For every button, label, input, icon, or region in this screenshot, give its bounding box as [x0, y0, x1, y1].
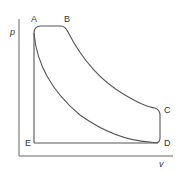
compression-curve [34, 33, 158, 143]
point-label-e: E [25, 139, 31, 148]
point-label-c: C [164, 106, 171, 115]
point-label-d: D [164, 139, 171, 148]
point-label-a: A [31, 15, 37, 24]
y-axis-label: p [10, 28, 15, 37]
point-label-b: B [64, 15, 70, 24]
x-axis-label: v [159, 160, 164, 169]
